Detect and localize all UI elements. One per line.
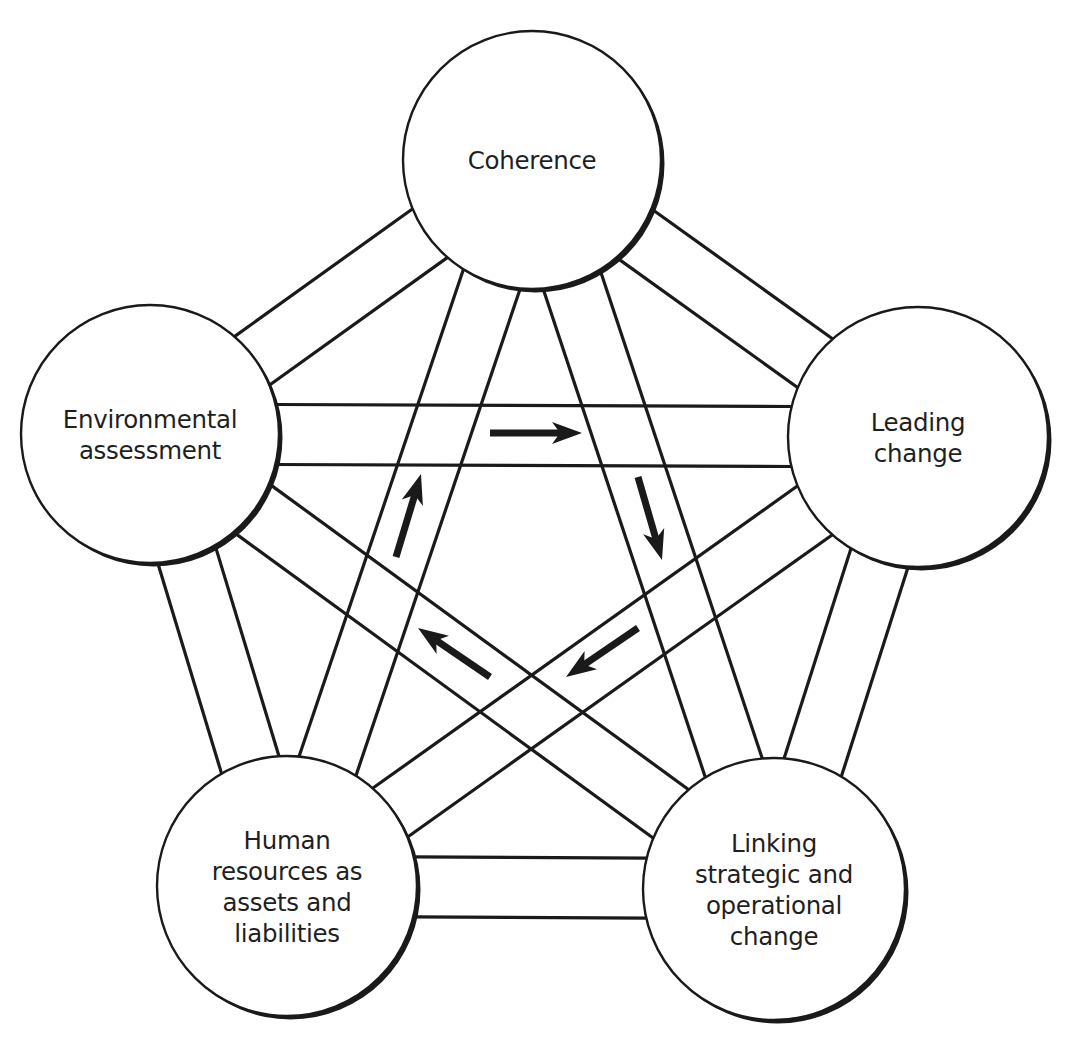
band-line: [616, 257, 799, 388]
node-circle: [788, 307, 1048, 567]
band-line: [841, 566, 909, 778]
band-line: [543, 288, 706, 779]
node-circle: [21, 305, 279, 563]
band-line: [157, 562, 222, 775]
band-coherence-to-leading-change: [616, 208, 834, 388]
node-label-line: Human: [244, 826, 331, 855]
node-label-line: strategic and: [695, 860, 853, 889]
pentagon-relationship-diagram: CoherenceEnvironmentalassessmentLeadingc…: [0, 0, 1065, 1042]
concept-nodes: CoherenceEnvironmentalassessmentLeadingc…: [21, 31, 1052, 1024]
node-coherence: Coherence: [403, 31, 665, 293]
arrow-right-icon: [490, 422, 582, 444]
node-circle: [643, 758, 905, 1020]
band-leading-change-to-linking-change: [784, 548, 909, 778]
node-label-line: assessment: [79, 436, 222, 465]
node-label-line: assets and: [223, 888, 352, 917]
cycle-arrows: [396, 422, 664, 677]
band-line: [356, 288, 521, 777]
node-label-line: Coherence: [468, 146, 597, 175]
band-line: [600, 269, 763, 760]
arrow-up-right-icon: [396, 474, 423, 557]
node-linking-change: Linkingstrategic andoperationalchange: [643, 758, 909, 1024]
band-line: [299, 268, 464, 757]
band-line: [412, 917, 647, 918]
band-human-resources-to-linking-change: [412, 857, 647, 918]
band-line: [651, 208, 834, 339]
band-line: [275, 405, 793, 407]
arrow-down-right-icon: [638, 477, 664, 560]
band-line: [269, 257, 449, 386]
band-line: [274, 465, 792, 467]
band-environmental-assessment-to-human-resources: [157, 544, 279, 774]
node-label-line: change: [874, 439, 962, 468]
band-line: [234, 208, 414, 337]
node-label-line: Environmental: [63, 405, 237, 434]
node-label-line: resources as: [212, 857, 363, 886]
arrow-down-left-icon: [566, 628, 638, 677]
node-label-line: Linking: [731, 829, 817, 858]
node-label-line: operational: [706, 891, 842, 920]
band-line: [215, 544, 279, 757]
node-label-line: Leading: [871, 408, 966, 437]
node-label-line: change: [730, 922, 818, 951]
band-line: [784, 548, 852, 760]
node-human-resources: Humanresources asassets andliabilities: [157, 756, 421, 1020]
node-label: Coherence: [468, 146, 597, 175]
node-circle: [157, 756, 417, 1016]
node-leading-change: Leadingchange: [788, 307, 1052, 571]
node-environmental-assessment: Environmentalassessment: [21, 305, 283, 567]
node-label-line: liabilities: [234, 919, 340, 948]
band-line: [413, 857, 648, 858]
band-coherence-to-environmental-assessment: [234, 208, 449, 386]
